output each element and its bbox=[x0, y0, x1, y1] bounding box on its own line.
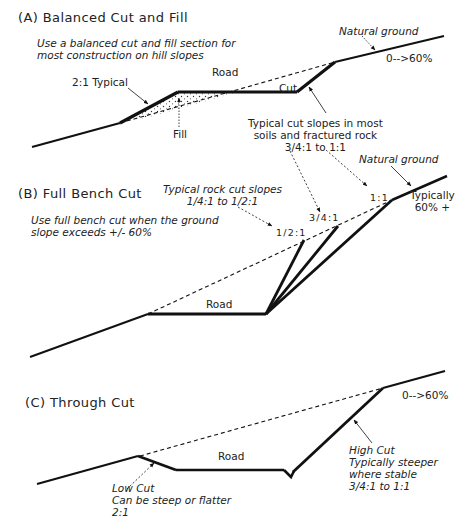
panel-a-title: (A) Balanced Cut and Fill bbox=[18, 11, 188, 26]
low-cut-slope bbox=[138, 456, 176, 470]
panel-b-natural-ground-label: Natural ground bbox=[359, 153, 438, 165]
cut-slope-three-quarter-to-one bbox=[266, 226, 338, 314]
low-cut-note: Low Cut Can be steep or flatter 2:1 bbox=[112, 482, 231, 518]
arrow-natural-ground-a bbox=[362, 36, 375, 50]
ratio-half-label: 1/2:1 bbox=[276, 228, 307, 239]
cut-slope-note: Typical cut slopes in most soils and fra… bbox=[248, 117, 383, 153]
high-cut-line2: Typically steeper bbox=[349, 456, 438, 468]
low-cut-line2: Can be steep or flatter bbox=[112, 494, 231, 506]
panel-b-road-label: Road bbox=[206, 298, 232, 310]
typically-line2: 60% + bbox=[410, 201, 455, 213]
cut-slope-note-line3: 3/4:1 to 1:1 bbox=[248, 141, 383, 153]
natural-ground-left bbox=[30, 314, 148, 357]
cut-slope-half-to-one bbox=[266, 240, 304, 314]
panel-b-note-line2: slope exceeds +/- 60% bbox=[31, 226, 219, 238]
panel-b-note-line1: Use full bench cut when the ground bbox=[31, 214, 219, 226]
typically-label: Typically 60% + bbox=[410, 189, 455, 213]
rock-cut-note: Typical rock cut slopes 1/4:1 to 1/2:1 bbox=[163, 183, 282, 207]
fill-slope-label: 2:1 Typical bbox=[72, 76, 128, 88]
high-cut-line1: High Cut bbox=[349, 444, 438, 456]
rock-cut-note-line2: 1/4:1 to 1/2:1 bbox=[163, 195, 282, 207]
arrow-high-cut bbox=[354, 420, 372, 443]
panel-c-title: (C) Through Cut bbox=[25, 396, 135, 411]
panel-a-natural-ground-label: Natural ground bbox=[339, 25, 418, 37]
panel-b-full-bench-cut bbox=[30, 150, 447, 357]
panel-a-slope-range-label: 0-->60% bbox=[386, 52, 432, 64]
fill-label: Fill bbox=[173, 128, 187, 140]
natural-ground-left bbox=[37, 456, 138, 484]
arrow-three-quarter bbox=[290, 151, 320, 212]
arrow-fill-slope bbox=[128, 88, 148, 104]
panel-a-note-line1: Use a balanced cut and fill section for bbox=[37, 37, 236, 49]
panel-b-title: (B) Full Bench Cut bbox=[18, 187, 142, 202]
high-cut-line3: where stable bbox=[349, 468, 438, 480]
ratio-three-quarter-label: 3/4:1 bbox=[309, 213, 340, 224]
panel-a-note-line2: most construction on hill slopes bbox=[37, 49, 236, 61]
low-cut-line1: Low Cut bbox=[112, 482, 231, 494]
cut-slope-note-line2: soils and fractured rock bbox=[248, 129, 383, 141]
arrow-cut-slope bbox=[309, 87, 326, 113]
high-cut-line4: 3/4:1 to 1:1 bbox=[349, 480, 438, 492]
cut-label: Cut bbox=[279, 82, 297, 94]
arrow-natural-ground-b bbox=[391, 166, 411, 186]
high-cut-note: High Cut Typically steeper where stable … bbox=[349, 444, 438, 492]
panel-b-note: Use full bench cut when the ground slope… bbox=[31, 214, 219, 238]
natural-ground-left bbox=[32, 123, 120, 147]
cut-slope bbox=[297, 62, 335, 92]
typically-line1: Typically bbox=[410, 189, 455, 201]
panel-a-road-label: Road bbox=[212, 66, 238, 78]
ratio-one-label: 1:1 bbox=[370, 193, 389, 204]
rock-cut-note-line1: Typical rock cut slopes bbox=[163, 183, 282, 195]
panel-c-road-label: Road bbox=[218, 450, 244, 462]
cut-slope-note-line1: Typical cut slopes in most bbox=[248, 117, 383, 129]
arrow-rock-cut-half bbox=[238, 207, 272, 226]
low-cut-line3: 2:1 bbox=[112, 506, 231, 518]
panel-c-slope-range-label: 0-->60% bbox=[402, 389, 448, 401]
panel-a-note: Use a balanced cut and fill section for … bbox=[37, 37, 236, 61]
natural-ground-right bbox=[383, 371, 445, 388]
